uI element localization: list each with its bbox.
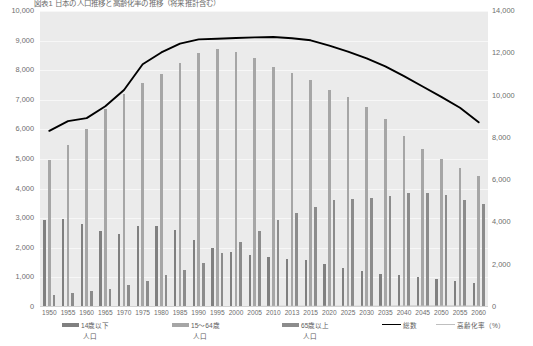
legend-swatch-icon (172, 323, 189, 327)
x-axis-tick: 2060 (469, 309, 488, 317)
x-axis-tick: 1965 (96, 309, 115, 317)
legend-label: 65歳以上 (301, 322, 329, 329)
y-axis-right-tick: 4,000 (492, 218, 526, 226)
x-axis-tick: 1970 (115, 309, 134, 317)
y-axis-right-tick: 14,000 (492, 7, 526, 15)
legend-sublabel: 人口 (282, 331, 329, 341)
y-axis-left-tick: 5,000 (0, 155, 34, 163)
x-axis-tick: 1955 (59, 309, 78, 317)
x-axis-tick: 1975 (133, 309, 152, 317)
y-axis-right-tick: 10,000 (492, 92, 526, 100)
x-axis-tick: 1990 (189, 309, 208, 317)
legend-item[interactable]: 総数 (382, 320, 417, 330)
x-axis-tick: 2000 (227, 309, 246, 317)
chart-legend: 14歳以下人口15～64歳人口65歳以上人口総数高齢化率（%） (0, 320, 533, 346)
y-axis-right-tick: 6,000 (492, 176, 526, 184)
x-axis-tick: 2045 (413, 309, 432, 317)
legend-swatch-icon (62, 323, 79, 327)
legend-label: 総数 (403, 322, 417, 329)
legend-item[interactable]: 65歳以上人口 (282, 320, 329, 341)
x-axis-tick: 2025 (339, 309, 358, 317)
y-axis-right-tick: 2,000 (492, 261, 526, 269)
x-axis-tick: 2040 (395, 309, 414, 317)
y-axis-left-tick: 7,000 (0, 96, 34, 104)
x-axis-tick: 2050 (432, 309, 451, 317)
y-axis-left-tick: 1,000 (0, 273, 34, 281)
chart-title: 図表1 日本の人口推移と高齢化率の推移（将来推計含む） (34, 0, 221, 8)
legend-label: 14歳以下 (81, 322, 109, 329)
y-axis-left-tick: 10,000 (0, 7, 34, 15)
x-axis-tick: 2015 (301, 309, 320, 317)
y-axis-left-tick: 9,000 (0, 37, 34, 45)
plot-area (40, 11, 488, 307)
x-axis-tick: 2020 (320, 309, 339, 317)
x-axis-baseline (40, 306, 488, 307)
legend-label: 高齢化率（%） (457, 322, 505, 329)
x-axis-tick: 2010 (264, 309, 283, 317)
legend-item[interactable]: 14歳以下人口 (62, 320, 109, 341)
chart-container: 図表1 日本の人口推移と高齢化率の推移（将来推計含む） 01,0002,0003… (0, 0, 533, 346)
legend-swatch-icon (382, 324, 401, 325)
legend-item[interactable]: 高齢化率（%） (436, 320, 505, 330)
y-axis-right: 02,0004,0006,0008,00010,00012,00014,000 (492, 11, 532, 307)
legend-item[interactable]: 15～64歳人口 (172, 320, 220, 341)
y-axis-left-tick: 3,000 (0, 214, 34, 222)
x-axis-tick: 2005 (245, 309, 264, 317)
y-axis-right-tick: 8,000 (492, 134, 526, 142)
y-axis-left-tick: 0 (0, 303, 34, 311)
x-axis-tick: 1985 (171, 309, 190, 317)
y-axis-left-tick: 6,000 (0, 125, 34, 133)
y-axis-left: 01,0002,0003,0004,0005,0006,0007,0008,00… (0, 11, 34, 307)
legend-sublabel: 人口 (172, 331, 220, 341)
y-axis-left-tick: 8,000 (0, 66, 34, 74)
x-axis-tick: 1980 (152, 309, 171, 317)
y-axis-right-tick: 12,000 (492, 49, 526, 57)
line-series (49, 37, 478, 131)
x-axis-tick: 2035 (376, 309, 395, 317)
x-axis-tick: 2030 (357, 309, 376, 317)
line-series-layer (40, 11, 488, 307)
x-axis: 1950195519601965197019751980198519901995… (40, 309, 488, 319)
legend-swatch-icon (282, 323, 299, 327)
legend-sublabel: 人口 (62, 331, 109, 341)
x-axis-tick: 1960 (77, 309, 96, 317)
legend-swatch-icon (436, 324, 455, 325)
x-axis-tick: 1950 (40, 309, 59, 317)
x-axis-tick: 2013 (283, 309, 302, 317)
y-axis-left-tick: 4,000 (0, 185, 34, 193)
y-axis-right-tick: 0 (492, 303, 526, 311)
x-axis-tick: 1995 (208, 309, 227, 317)
legend-label: 15～64歳 (191, 322, 220, 329)
y-axis-left-tick: 2,000 (0, 244, 34, 252)
x-axis-tick: 2055 (451, 309, 470, 317)
